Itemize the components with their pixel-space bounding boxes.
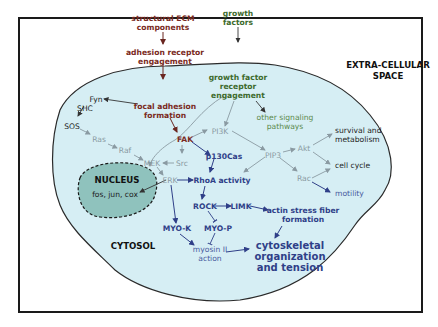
gf-receptor-label: growth factor xyxy=(209,73,268,82)
growth-factors-label: growth xyxy=(223,9,253,18)
gf-receptor-label-2: receptor xyxy=(220,82,257,91)
adhesion-receptor-label-2: engagement xyxy=(138,57,192,66)
mek-node: MEK xyxy=(144,159,161,168)
extracellular-label: EXTRA-CELLULAR xyxy=(346,60,430,70)
motility-label: motility xyxy=(335,189,364,198)
fyn-node: Fyn xyxy=(90,95,103,104)
actin-stress-fiber-label: actin stress fiber xyxy=(267,206,340,215)
adhesion-receptor-label: adhesion receptor xyxy=(126,48,204,57)
other-signaling-label-2: pathways xyxy=(267,122,304,131)
erk-node: ERK xyxy=(162,176,178,185)
signaling-diagram: EXTRA-CELLULAR SPACE CYTOSOL NUCLEUS fos… xyxy=(0,0,438,327)
growth-factors-label-2: factors xyxy=(223,18,254,27)
focal-adhesion-label-2: formation xyxy=(144,111,186,120)
cytoskeletal-label-2: organization xyxy=(254,251,325,262)
myo-k-node: MYO-K xyxy=(163,224,193,233)
focal-adhesion-label: focal adhesion xyxy=(134,102,196,111)
myo-p-node: MYO-P xyxy=(204,224,233,233)
akt-node: Akt xyxy=(298,144,311,153)
cytosol-label: CYTOSOL xyxy=(111,241,156,251)
pip3-node: PIP3 xyxy=(265,151,281,160)
myosin-label: myosin II xyxy=(193,245,227,254)
p130cas-node: p130Cas xyxy=(206,152,243,161)
shc-node: SHC xyxy=(77,104,93,113)
gf-receptor-label-3: engagement xyxy=(211,91,265,100)
cell-cycle-label: cell cycle xyxy=(335,161,370,170)
nucleus-genes: fos, jun, cox xyxy=(92,190,138,199)
actin-stress-fiber-label-2: formation xyxy=(282,215,324,224)
survival-label: survival and xyxy=(335,126,382,135)
structural-ecm-label-2: components xyxy=(137,23,190,32)
pi3k-node: PI3K xyxy=(212,127,230,136)
rhoa-node: RhoA activity xyxy=(194,176,251,185)
extracellular-label-2: SPACE xyxy=(373,71,404,81)
cytoskeletal-label-3: and tension xyxy=(257,262,324,273)
fak-node: FAK xyxy=(177,135,194,144)
src-node: Src xyxy=(176,159,188,168)
limk-node: LIMK xyxy=(230,202,252,211)
sos-node: SOS xyxy=(64,122,80,131)
rock-node: ROCK xyxy=(193,202,218,211)
structural-ecm-label: structural ECM xyxy=(131,14,194,23)
survival-label-2: metabolism xyxy=(335,135,380,144)
nucleus-label: NUCLEUS xyxy=(95,175,140,185)
ras-node: Ras xyxy=(92,135,106,144)
myosin-label-2: action xyxy=(198,254,222,263)
rac-node: Rac xyxy=(297,174,311,183)
raf-node: Raf xyxy=(119,146,132,155)
other-signaling-label: other signaling xyxy=(257,113,314,122)
cytoskeletal-label: cytoskeletal xyxy=(256,240,324,251)
